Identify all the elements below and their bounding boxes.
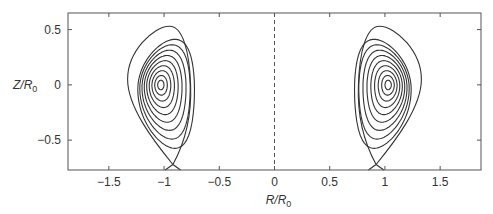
y-axis-label: Z/R0 (12, 78, 37, 94)
flux-contour (382, 76, 395, 96)
y-tick-labels: 0.50−0.5 (37, 23, 61, 148)
flux-contour (158, 80, 164, 90)
y-tick-label: 0.5 (44, 23, 61, 37)
flux-surfaces-left (128, 26, 195, 170)
plot-area (128, 13, 422, 170)
y-tick-label: −0.5 (37, 133, 61, 147)
x-tick-label: 0 (271, 175, 278, 189)
x-tick-label: 1.5 (432, 175, 449, 189)
x-tick-labels: −1.5−1−0.500.511.5 (97, 175, 449, 189)
flux-contour (371, 61, 403, 115)
x-tick-label: −1 (157, 175, 171, 189)
x-tick-label: −1.5 (97, 175, 121, 189)
flux-contour (155, 76, 168, 96)
x-tick-label: 1 (382, 175, 389, 189)
flux-contour (147, 61, 179, 115)
x-tick-label: −0.5 (207, 175, 231, 189)
flux-contour (142, 50, 186, 130)
x-axis-label: R/R0 (266, 193, 292, 209)
flux-contour (363, 50, 407, 130)
flux-contour (385, 80, 391, 90)
flux-surface-plot: −1.5−1−0.500.511.5 0.50−0.5 R/R0 Z/R0 (0, 0, 493, 214)
y-tick-label: 0 (54, 78, 61, 92)
x-tick-label: 0.5 (321, 175, 338, 189)
flux-surfaces-right (355, 26, 422, 170)
